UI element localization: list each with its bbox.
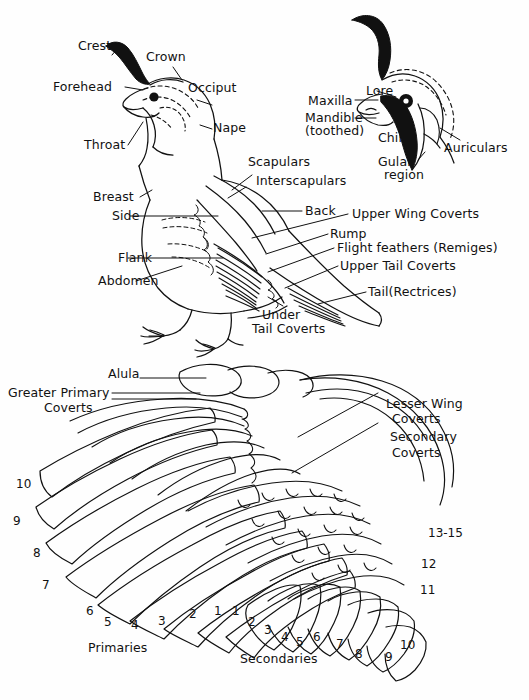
mandible-tooth xyxy=(366,109,376,111)
leader-upper-tail-coverts xyxy=(285,266,338,288)
label-under-tail-coverts-line2: Tail Coverts xyxy=(252,322,325,336)
label-throat: Throat xyxy=(84,138,125,152)
label-lore: Lore xyxy=(366,84,393,98)
label-secondaries-group: Secondaries xyxy=(240,652,318,666)
wing-flight-feather-hatching xyxy=(216,248,262,308)
label-greater-primary-coverts-line1: Greater Primary xyxy=(8,386,109,400)
head-detail-pupil xyxy=(403,98,408,103)
leader-flight-feathers xyxy=(268,248,334,272)
leg-right xyxy=(228,313,231,339)
side-scallops xyxy=(194,205,208,249)
label-back: Back xyxy=(305,204,336,218)
label-breast: Breast xyxy=(93,190,134,204)
leader-interscapulars xyxy=(228,187,246,198)
flank-dashes xyxy=(168,244,208,252)
primary-number: 7 xyxy=(42,578,50,592)
primary-number: 10 xyxy=(16,477,31,491)
secondary-number: 12 xyxy=(421,557,436,571)
secondary-number: 1 xyxy=(232,604,240,618)
label-lesser-wing-coverts-line2: Coverts xyxy=(392,412,441,426)
flank-dashes-2 xyxy=(172,257,210,268)
label-flank: Flank xyxy=(118,251,152,265)
secondary-coverts-rows xyxy=(188,481,404,599)
label-under-tail-coverts-line1: Under xyxy=(262,308,300,322)
secondary-number: 6 xyxy=(313,630,321,644)
secondary-number: 9 xyxy=(385,650,393,664)
primary-number: 4 xyxy=(131,618,139,632)
label-occiput: Occiput xyxy=(188,81,237,95)
label-upper-wing-coverts: Upper Wing Coverts xyxy=(352,207,479,221)
label-maxilla: Maxilla xyxy=(308,94,353,108)
primary-number: 3 xyxy=(158,614,166,628)
label-crown: Crown xyxy=(146,50,186,64)
leader-throat xyxy=(128,122,143,145)
bill-upper xyxy=(123,88,148,109)
hind-toe xyxy=(228,339,243,345)
label-chin: Chin xyxy=(378,131,406,145)
label-crest: Crest xyxy=(78,39,111,53)
bird-anatomy-plate: Crest Crown Forehead Occiput Nape Throat… xyxy=(0,0,529,700)
label-secondary-coverts-line2: Coverts xyxy=(392,446,441,460)
label-side: Side xyxy=(112,209,139,223)
secondaries-group xyxy=(246,584,426,681)
leg-left-tarsus xyxy=(163,330,180,336)
leader-nape xyxy=(200,125,212,129)
label-primaries-group: Primaries xyxy=(88,641,147,655)
side-feather-dashes-2 xyxy=(163,227,207,233)
covert-scallop-edge xyxy=(242,409,256,483)
primary-number: 1 xyxy=(214,604,222,618)
label-nape: Nape xyxy=(213,121,246,135)
label-flight-feathers: Flight feathers (Remiges) xyxy=(337,241,498,255)
secondary-number: 4 xyxy=(281,630,289,644)
label-gular-line2: region xyxy=(384,168,424,182)
secondary-number: 13-15 xyxy=(428,526,463,540)
greater-primary-coverts xyxy=(70,398,300,511)
secondary-number: 5 xyxy=(296,635,304,649)
label-mandible-line2: (toothed) xyxy=(305,124,364,138)
secondary-number: 10 xyxy=(400,638,415,652)
primary-number: 8 xyxy=(33,546,41,560)
label-lesser-wing-coverts-line1: Lesser Wing xyxy=(386,397,463,411)
leader-secondary-coverts xyxy=(292,423,378,473)
label-greater-primary-coverts-line2: Coverts xyxy=(44,401,93,415)
secondary-number: 2 xyxy=(248,615,256,629)
secondary-number: 8 xyxy=(355,647,363,661)
auricular-patch xyxy=(420,108,439,144)
leg-right-tarsus xyxy=(214,339,228,349)
secondary-number: 11 xyxy=(420,583,435,597)
label-secondary-coverts-line1: Secondary xyxy=(390,430,457,444)
label-tail-rectrices: Tail(Rectrices) xyxy=(368,285,457,299)
secondary-number: 7 xyxy=(336,637,344,651)
label-rump: Rump xyxy=(330,227,367,241)
leader-lines-wing xyxy=(112,378,378,473)
leader-auriculars xyxy=(440,128,460,140)
body-lower xyxy=(188,309,244,313)
label-scapulars: Scapulars xyxy=(248,155,310,169)
primary-number: 6 xyxy=(86,604,94,618)
primary-number: 9 xyxy=(13,514,21,528)
primary-number: 2 xyxy=(189,607,197,621)
leader-forehead xyxy=(125,87,143,90)
label-upper-tail-coverts: Upper Tail Coverts xyxy=(340,259,456,273)
label-auriculars: Auriculars xyxy=(444,141,508,155)
leg-left xyxy=(180,310,192,330)
label-alula: Alula xyxy=(108,367,140,381)
crest-shape xyxy=(106,42,150,84)
face-line xyxy=(143,108,155,147)
primary-number: 5 xyxy=(104,615,112,629)
secondary-number: 3 xyxy=(264,623,272,637)
label-abdomen: Abdomen xyxy=(98,274,159,288)
cheek-line xyxy=(153,147,173,155)
head-detail-crest xyxy=(352,15,391,80)
label-interscapulars: Interscapulars xyxy=(256,174,346,188)
leader-rump xyxy=(266,234,328,254)
auricular-dashes xyxy=(160,107,185,131)
tail-tip xyxy=(379,313,381,326)
label-forehead: Forehead xyxy=(53,80,112,94)
neck-back xyxy=(214,139,222,180)
